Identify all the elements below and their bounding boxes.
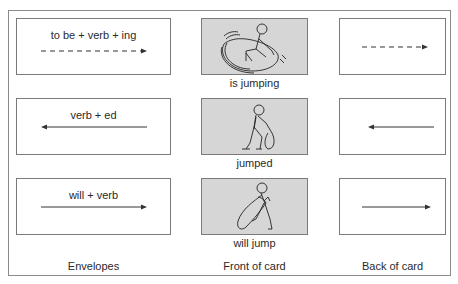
front-caption: will jump: [201, 237, 308, 249]
envelope-text: verb + ed: [17, 109, 170, 121]
front-caption: is jumping: [201, 77, 308, 89]
front-caption: jumped: [201, 157, 308, 169]
front-card-will-jump: [201, 178, 308, 235]
solid-arrow-left-icon: [368, 124, 438, 130]
back-card-past: [339, 98, 446, 155]
stick-figure-crouching-icon: [202, 179, 309, 236]
column-label-envelopes: Envelopes: [16, 260, 171, 272]
envelope-text: will + verb: [17, 189, 170, 201]
dashed-arrow-right-icon: [41, 48, 151, 54]
envelope-progressive: to be + verb + ing: [16, 18, 171, 75]
column-label-back: Back of card: [339, 260, 446, 272]
solid-arrow-right-icon: [41, 204, 151, 210]
dashed-arrow-right-icon: [362, 44, 432, 50]
stick-figure-landed-icon: [202, 99, 309, 156]
envelope-past: verb + ed: [16, 98, 171, 155]
envelope-text: to be + verb + ing: [17, 29, 170, 41]
back-card-future: [339, 178, 446, 235]
column-label-front: Front of card: [201, 260, 308, 272]
solid-arrow-right-icon: [362, 204, 432, 210]
front-card-jumped: [201, 98, 308, 155]
envelope-future: will + verb: [16, 178, 171, 235]
stick-figure-jumping-icon: [202, 19, 309, 76]
front-card-is-jumping: [201, 18, 308, 75]
back-card-progressive: [339, 18, 446, 75]
solid-arrow-left-icon: [41, 124, 151, 130]
